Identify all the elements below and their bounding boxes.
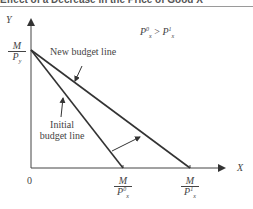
initial-line-pointer [61,98,63,117]
y-intercept-label: M Py [8,41,26,62]
new-budget-line [31,50,190,168]
price-condition-label: P0x > P1x [140,26,174,37]
new-x-intercept-label: M P1x [181,176,199,197]
rotation-arrow [112,137,140,151]
origin-label: 0 [27,175,32,186]
new-budget-line-label: New budget line [50,46,116,57]
x-axis-label: X [237,162,243,173]
new-line-pointer [75,66,82,81]
initial-budget-line-label: Initial budget line [36,119,88,141]
y-axis-label: Y [6,14,12,25]
initial-x-intercept-label: M P0x [114,176,132,197]
